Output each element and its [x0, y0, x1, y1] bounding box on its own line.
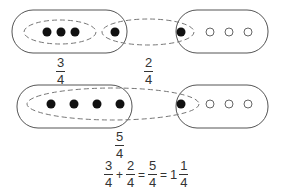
sum-equation: 3 4 + 2 4 = 5 4 = 1 1 4 [104, 159, 188, 190]
denominator: 4 [149, 176, 156, 190]
filled-counter [177, 100, 186, 109]
empty-counter [244, 100, 252, 108]
bottom-right-group-box [176, 85, 268, 128]
label-five-fourths: 5 4 [115, 130, 124, 161]
denominator: 4 [57, 73, 64, 87]
sum-fraction: 5 4 [148, 159, 157, 190]
numerator: 2 [145, 56, 152, 70]
denominator: 4 [127, 176, 134, 190]
filled-counter [43, 28, 52, 37]
filled-counter [71, 28, 80, 37]
empty-counter [244, 28, 252, 36]
empty-counter [225, 100, 233, 108]
term1-fraction: 3 4 [104, 159, 113, 190]
empty-counter [225, 28, 233, 36]
top-left-group-box [12, 10, 127, 53]
filled-counter [47, 100, 56, 109]
filled-counter [111, 28, 120, 37]
term2-fraction: 2 4 [126, 159, 135, 190]
numerator: 3 [105, 159, 112, 173]
numerator: 3 [57, 56, 64, 70]
equals-sign: = [138, 168, 145, 182]
numerator: 5 [149, 159, 156, 173]
equals-sign: = [160, 168, 167, 182]
denominator: 4 [105, 176, 112, 190]
filled-counter [70, 100, 79, 109]
label-two-fourths: 2 4 [144, 56, 153, 87]
filled-counter [93, 100, 102, 109]
denominator: 4 [180, 176, 187, 190]
filled-counter [57, 28, 66, 37]
filled-counter [116, 100, 125, 109]
mixed-number-whole: 1 [170, 167, 177, 182]
numerator: 5 [116, 130, 123, 144]
mixed-number-fraction: 1 4 [179, 159, 188, 190]
filled-counter [177, 28, 186, 37]
numerator: 1 [180, 159, 187, 173]
denominator: 4 [145, 73, 152, 87]
numerator: 2 [127, 159, 134, 173]
plus-sign: + [116, 168, 123, 182]
empty-counter [206, 28, 214, 36]
top-right-group-box [176, 10, 268, 53]
label-three-fourths: 3 4 [56, 56, 65, 87]
empty-counter [206, 100, 214, 108]
